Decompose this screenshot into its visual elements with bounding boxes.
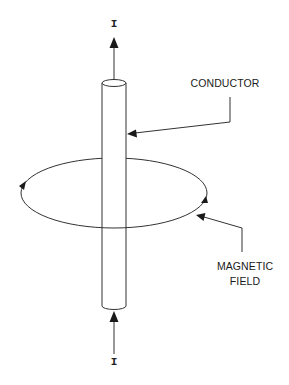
field-direction-arrow-left-icon xyxy=(19,181,26,190)
current-arrow-top xyxy=(110,37,119,80)
magnetic-field-label-line1: MAGNETIC xyxy=(205,259,285,274)
conductor-cylinder xyxy=(102,80,126,310)
conductor-magnetic-field-diagram xyxy=(0,0,289,385)
current-label-top: I xyxy=(107,18,121,30)
magnetic-field-leader-line xyxy=(196,213,242,252)
conductor-leader-line xyxy=(127,97,230,138)
magnetic-field-label: MAGNETIC FIELD xyxy=(205,259,285,289)
arrow-up-icon xyxy=(110,37,119,48)
arrow-left-icon xyxy=(196,213,206,221)
arrow-up-icon xyxy=(110,311,119,322)
conductor-label: CONDUCTOR xyxy=(180,76,270,91)
arrow-left-icon xyxy=(127,130,137,138)
current-arrow-bottom xyxy=(110,311,119,354)
current-label-bottom: I xyxy=(107,356,121,368)
magnetic-field-label-line2: FIELD xyxy=(205,274,285,289)
